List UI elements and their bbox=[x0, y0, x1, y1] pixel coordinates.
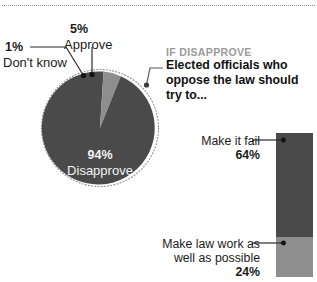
pie-disapprove-percent: 94% bbox=[60, 148, 140, 163]
pie-dont-know-percent: 1% bbox=[5, 40, 23, 55]
bar-label-make-it-fail: Make it fail bbox=[150, 134, 260, 149]
callout-kicker: IF DISAPPROVE bbox=[166, 46, 252, 58]
bar-percent-make-law-work: 24% bbox=[128, 265, 260, 280]
leader-line-callout bbox=[144, 68, 163, 88]
infographic-canvas: 5% Approve 1% Don't know 94% Disapprove … bbox=[0, 0, 317, 282]
callout-headline: Elected officials who oppose the law sho… bbox=[166, 58, 312, 103]
bar-label-make-law-work-line2: well as possible bbox=[128, 251, 260, 266]
bar-segment-make-it-fail[interactable] bbox=[276, 133, 313, 237]
bar-percent-make-it-fail: 64% bbox=[150, 148, 260, 163]
pie-approve-label: Approve bbox=[64, 37, 112, 52]
pie-disapprove-annotation: 94% Disapprove bbox=[60, 148, 140, 178]
bar-label-make-law-work-line1: Make law work as bbox=[128, 237, 260, 252]
pie-disapprove-label: Disapprove bbox=[60, 163, 140, 178]
pie-dont-know-label: Don't know bbox=[3, 55, 67, 70]
pie-approve-percent: 5% bbox=[70, 22, 88, 37]
